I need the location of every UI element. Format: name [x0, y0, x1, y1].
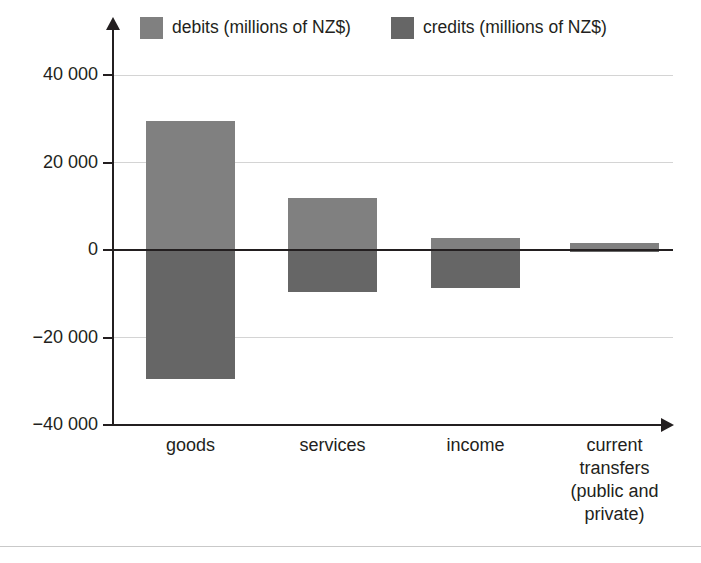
y-axis-tick-label: 0	[0, 240, 98, 258]
category-label-line: transfers	[542, 457, 687, 480]
y-axis-tick-label: −20 000	[0, 328, 98, 346]
x-axis-category-label: services	[260, 434, 405, 457]
bar-credits	[146, 250, 235, 379]
category-label-line: private)	[542, 503, 687, 526]
y-axis-tick-label: 40 000	[0, 65, 98, 83]
bar-debits	[146, 121, 235, 250]
y-axis-line	[112, 28, 114, 426]
gridline	[113, 75, 673, 76]
plot-area: 40 00020 0000−20 000−40 000 goodsservice…	[0, 0, 701, 563]
bar-credits	[288, 250, 377, 292]
category-label-line: current	[542, 434, 687, 457]
x-axis-category-label: currenttransfers(public andprivate)	[542, 434, 687, 525]
zero-baseline	[113, 249, 673, 251]
bar-debits	[288, 198, 377, 251]
x-axis-category-label: income	[403, 434, 548, 457]
y-axis-tick-label: 20 000	[0, 153, 98, 171]
category-label-line: goods	[118, 434, 263, 457]
category-label-line: (public and	[542, 480, 687, 503]
x-axis-category-label: goods	[118, 434, 263, 457]
chart-figure: debits (millions of NZ$) credits (millio…	[0, 0, 701, 563]
y-axis-arrow-icon	[106, 17, 120, 30]
category-label-line: services	[260, 434, 405, 457]
bottom-divider	[0, 546, 701, 547]
category-label-line: income	[403, 434, 548, 457]
x-axis-arrow-icon	[661, 418, 674, 432]
bar-credits	[431, 250, 520, 288]
x-axis-line	[112, 424, 664, 426]
y-axis-tick-label: −40 000	[0, 415, 98, 433]
